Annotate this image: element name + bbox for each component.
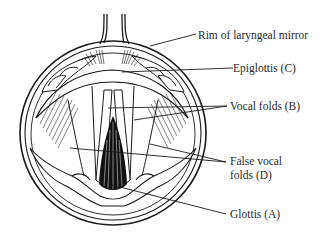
label-vocal-folds: Vocal folds (B)	[230, 100, 300, 113]
leader-vocal-folds-a	[108, 106, 227, 108]
label-false-vocal-folds-line1: False vocal	[230, 155, 282, 168]
mirror-handle	[100, 14, 129, 44]
leader-rim	[150, 34, 196, 46]
label-rim-of-laryngeal-mirror: Rim of laryngeal mirror	[198, 29, 308, 42]
label-glottis: Glottis (A)	[230, 208, 280, 221]
label-epiglottis: Epiglottis (C)	[233, 62, 296, 75]
leader-epiglottis	[122, 68, 233, 72]
label-false-vocal-folds-line2: folds (D)	[230, 169, 272, 182]
